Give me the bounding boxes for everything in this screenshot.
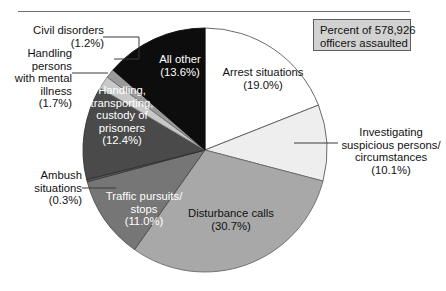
- label-mental-illness-line1: Handling: [0, 47, 72, 60]
- label-ambush-line1: Ambush: [0, 169, 82, 182]
- label-arrest-line2: (19.0%): [208, 79, 318, 92]
- label-disturbance-line2: (30.7%): [176, 220, 286, 233]
- label-investigating-line2: suspicious persons/: [336, 139, 446, 152]
- label-handling-transporting-prisoners: Handling, transporting, custody of priso…: [76, 84, 168, 147]
- label-prisoners-line3: custody of: [76, 109, 168, 122]
- label-handling-persons-mental-illness: Handling persons with mental illness (1.…: [0, 47, 72, 110]
- label-investigating-suspicious-persons: Investigating suspicious persons/ circum…: [336, 126, 446, 176]
- legend-text: Percent of 578,926 officers assaulted: [320, 24, 415, 49]
- label-mental-illness-line5: (1.7%): [0, 97, 72, 110]
- label-prisoners-line2: transporting,: [76, 97, 168, 110]
- label-investigating-line3: circumstances: [336, 151, 446, 164]
- legend-box: Percent of 578,926 officers assaulted: [313, 19, 411, 51]
- label-civil-disorders-line1: Civil disorders: [0, 24, 104, 37]
- label-ambush-line2: situations: [0, 182, 82, 195]
- label-disturbance-calls: Disturbance calls (30.7%): [176, 207, 286, 232]
- label-investigating-line4: (10.1%): [336, 164, 446, 177]
- legend-line-1: Percent of 578,926: [320, 24, 415, 37]
- label-all-other-line1: All other: [130, 53, 230, 66]
- pie-chart-figure: Percent of 578,926 officers assaulted Ci…: [0, 0, 446, 291]
- label-investigating-line1: Investigating: [336, 126, 446, 139]
- label-mental-illness-line3: with mental: [0, 72, 72, 85]
- label-prisoners-line4: prisoners: [76, 122, 168, 135]
- label-civil-disorders: Civil disorders (1.2%): [0, 24, 104, 49]
- label-traffic-line1: Traffic pursuits/: [92, 190, 196, 203]
- label-mental-illness-line4: illness: [0, 85, 72, 98]
- legend-line-2: officers assaulted: [320, 37, 415, 50]
- label-disturbance-line1: Disturbance calls: [176, 207, 286, 220]
- label-arrest-situations: Arrest situations (19.0%): [208, 66, 318, 91]
- label-prisoners-line5: (12.4%): [76, 134, 168, 147]
- label-mental-illness-line2: persons: [0, 60, 72, 73]
- label-ambush-situations: Ambush situations (0.3%): [0, 169, 82, 207]
- label-ambush-line3: (0.3%): [0, 194, 82, 207]
- label-prisoners-line1: Handling,: [76, 84, 168, 97]
- label-arrest-line1: Arrest situations: [208, 66, 318, 79]
